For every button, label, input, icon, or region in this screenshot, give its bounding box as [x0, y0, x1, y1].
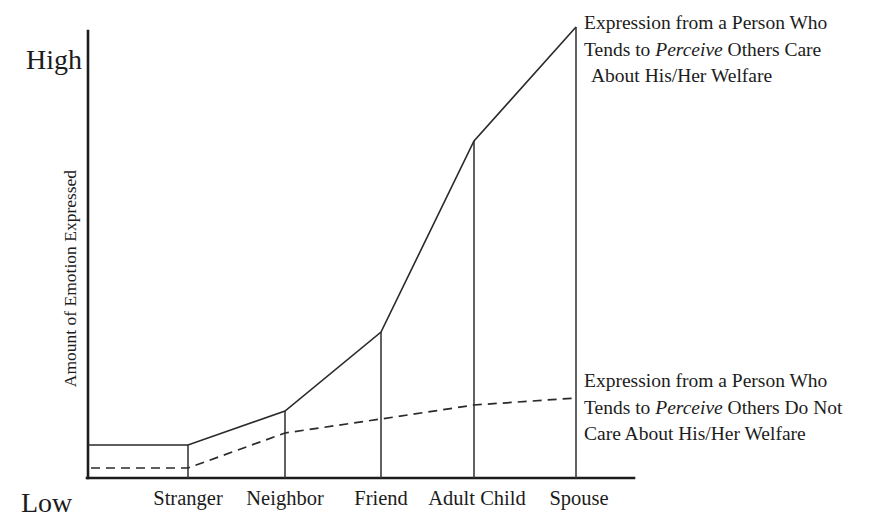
annotation-perceive-not-care-line2-pre: Tends to: [584, 397, 655, 418]
annotation-perceive-care-emphasis: Perceive: [655, 39, 722, 60]
annotation-perceive-care-line2-post: Others Care: [723, 39, 822, 60]
annotation-perceive-care: Expression from a Person Who Tends to Pe…: [584, 10, 827, 90]
emotion-expression-chart: High Low Amount of Emotion Expressed Str…: [0, 0, 880, 532]
annotation-perceive-not-care-emphasis: Perceive: [655, 397, 722, 418]
annotation-perceive-not-care-line1: Expression from a Person Who: [584, 368, 842, 395]
annotation-perceive-care-line2: Tends to Perceive Others Care: [584, 37, 827, 64]
y-axis-low-label: Low: [21, 487, 72, 518]
x-tick-label-adult-child: Adult Child: [428, 487, 525, 510]
series-line-perceive-not-care: [91, 398, 576, 468]
x-tick-label-neighbor: Neighbor: [246, 487, 323, 510]
y-axis-title-wrapper: Amount of Emotion Expressed: [60, 149, 81, 409]
annotation-perceive-not-care: Expression from a Person Who Tends to Pe…: [584, 368, 842, 448]
annotation-perceive-not-care-line3: Care About His/Her Welfare: [584, 421, 842, 448]
x-tick-label-stranger: Stranger: [153, 487, 222, 510]
x-tick-label-friend: Friend: [354, 487, 408, 510]
annotation-perceive-care-line3: About His/Her Welfare: [591, 63, 827, 90]
y-axis-title: Amount of Emotion Expressed: [60, 170, 80, 387]
annotation-perceive-care-line1: Expression from a Person Who: [584, 10, 827, 37]
annotation-perceive-not-care-line2-post: Others Do Not: [723, 397, 843, 418]
series-line-perceive-care: [88, 27, 576, 445]
x-tick-label-spouse: Spouse: [549, 487, 608, 510]
annotation-perceive-care-line2-pre: Tends to: [584, 39, 655, 60]
y-axis-high-label: High: [26, 44, 82, 75]
annotation-perceive-not-care-line2: Tends to Perceive Others Do Not: [584, 395, 842, 422]
